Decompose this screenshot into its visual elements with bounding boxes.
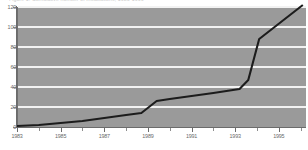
x-minor-tick-1992: [213, 128, 214, 131]
x-tick-label-1995: 1995: [266, 133, 292, 140]
y-tick-label-100: 100: [2, 24, 16, 30]
x-tick-label-1993: 1993: [222, 133, 248, 140]
x-tick-1991: [192, 128, 193, 132]
y-tick-label-20: 20: [2, 104, 16, 110]
data-series-layer: [17, 7, 305, 127]
y-tick-label-80: 80: [2, 44, 16, 50]
x-tick-1993: [235, 128, 236, 132]
x-tick-label-1985: 1985: [48, 133, 74, 140]
figure-caption: Figure 1. Cumulative number of installat…: [0, 0, 308, 5]
figure-caption-text: Figure 1. Cumulative number of installat…: [9, 0, 144, 2]
x-minor-tick-1988: [126, 128, 127, 131]
x-tick-1983: [17, 128, 18, 132]
x-tick-label-1989: 1989: [135, 133, 161, 140]
x-minor-tick-1984: [39, 128, 40, 131]
x-tick-1989: [148, 128, 149, 132]
x-tick-1995: [279, 128, 280, 132]
y-tick-label-40: 40: [2, 84, 16, 90]
x-tick-1985: [61, 128, 62, 132]
data-line-cumulative-total: [17, 5, 303, 126]
x-minor-tick-1994: [257, 128, 258, 131]
x-minor-tick-1986: [82, 128, 83, 131]
y-tick-label-60: 60: [2, 64, 16, 70]
x-tick-label-1983: 1983: [4, 133, 30, 140]
y-tick-label-0: 0: [2, 124, 16, 130]
x-minor-tick-1996: [301, 128, 302, 131]
x-minor-tick-1990: [170, 128, 171, 131]
x-tick-label-1991: 1991: [179, 133, 205, 140]
x-tick-label-1987: 1987: [91, 133, 117, 140]
x-tick-1987: [104, 128, 105, 132]
y-tick-label-120: 120: [2, 4, 16, 10]
chart-figure: Figure 1. Cumulative number of installat…: [0, 0, 308, 150]
